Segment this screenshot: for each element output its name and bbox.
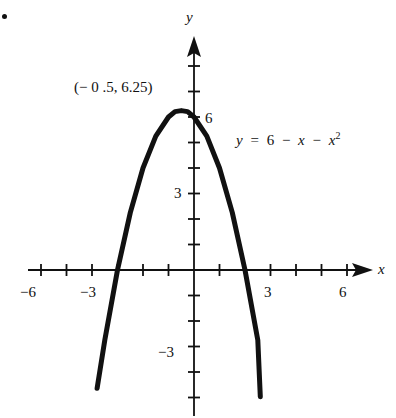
eq-six: 6: [267, 132, 275, 148]
x-tick-label-neg3: −3: [80, 285, 96, 300]
vertex-annotation: (− 0 .5, 6.25): [74, 80, 152, 95]
x-tick-label-3: 3: [264, 285, 272, 300]
eq-minus-2: −: [313, 132, 321, 148]
eq-minus-1: −: [282, 132, 290, 148]
eq-x-1: x: [298, 132, 305, 148]
eq-exponent: 2: [335, 130, 340, 141]
x-tick-label-neg6: −6: [20, 285, 36, 300]
y-axis: [188, 52, 200, 416]
y-tick-label-3: 3: [174, 186, 182, 201]
x-tick-label-6: 6: [339, 285, 347, 300]
eq-equals: =: [250, 132, 258, 148]
y-tick-label-neg3: −3: [158, 345, 174, 360]
chart-canvas: [0, 0, 396, 418]
x-axis-label: x: [378, 262, 385, 277]
equation-label: y = 6 − x − x2: [236, 131, 340, 148]
eq-y: y: [236, 132, 243, 148]
y-tick-label-6: 6: [205, 111, 213, 126]
parabola-series: [97, 111, 260, 397]
y-axis-label: y: [186, 10, 193, 25]
